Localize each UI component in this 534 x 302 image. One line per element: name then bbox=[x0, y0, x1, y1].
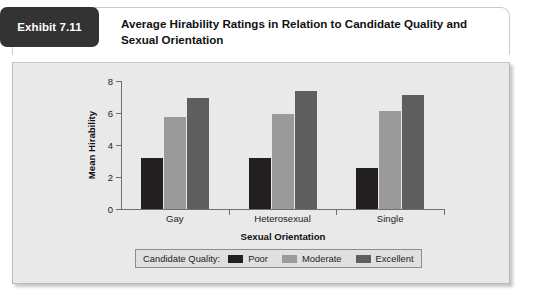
y-axis-tick bbox=[116, 145, 121, 146]
legend-swatch-moderate bbox=[282, 255, 297, 263]
plot-area: 02468 bbox=[121, 81, 444, 209]
bar-poor-heterosexual bbox=[249, 158, 271, 209]
y-axis-tick bbox=[116, 113, 121, 114]
x-axis-tick bbox=[444, 210, 445, 215]
x-axis-tick bbox=[229, 210, 230, 215]
y-axis-tick-label: 0 bbox=[108, 204, 113, 215]
legend-label-poor: Poor bbox=[248, 253, 268, 264]
chart-panel: Mean Hirability Sexual Orientation 02468… bbox=[12, 62, 510, 284]
bar-excellent-single bbox=[402, 95, 424, 209]
y-axis-tick bbox=[116, 177, 121, 178]
legend-item-poor: Poor bbox=[228, 253, 268, 264]
y-axis-tick-label: 6 bbox=[108, 108, 113, 119]
bar-excellent-gay bbox=[187, 98, 209, 209]
legend-swatch-excellent bbox=[356, 255, 371, 263]
page-title: Average Hirability Ratings in Relation t… bbox=[121, 16, 495, 47]
legend-item-moderate: Moderate bbox=[282, 253, 342, 264]
legend-label-excellent: Excellent bbox=[376, 253, 414, 264]
x-axis-line bbox=[121, 209, 445, 210]
y-axis-tick-label: 4 bbox=[108, 140, 113, 151]
bar-moderate-heterosexual bbox=[272, 114, 294, 209]
y-axis-tick bbox=[116, 209, 121, 210]
legend-title: Candidate Quality: bbox=[143, 253, 220, 264]
x-axis-category-label: Single bbox=[377, 213, 404, 224]
exhibit-number-label: Exhibit 7.11 bbox=[17, 21, 81, 33]
y-axis-title: Mean Hirability bbox=[86, 111, 97, 179]
bar-excellent-heterosexual bbox=[295, 91, 317, 209]
legend-item-excellent: Excellent bbox=[356, 253, 414, 264]
y-axis-tick-label: 2 bbox=[108, 172, 113, 183]
y-axis-tick-label: 8 bbox=[108, 76, 113, 87]
exhibit-container: Average Hirability Ratings in Relation t… bbox=[0, 0, 534, 302]
bar-moderate-gay bbox=[164, 117, 186, 209]
bar-poor-single bbox=[356, 168, 378, 209]
bar-poor-gay bbox=[141, 158, 163, 209]
chart-legend: Candidate Quality: PoorModerateExcellent bbox=[135, 249, 422, 268]
x-axis-title: Sexual Orientation bbox=[121, 231, 445, 242]
bar-moderate-single bbox=[379, 111, 401, 209]
x-axis-category-label: Gay bbox=[166, 213, 184, 224]
x-axis-tick bbox=[336, 210, 337, 215]
x-axis-category-label: Heterosexual bbox=[254, 213, 311, 224]
y-axis-tick bbox=[116, 81, 121, 82]
legend-swatch-poor bbox=[228, 255, 243, 263]
exhibit-number-badge: Exhibit 7.11 bbox=[0, 7, 99, 47]
legend-label-moderate: Moderate bbox=[302, 253, 342, 264]
